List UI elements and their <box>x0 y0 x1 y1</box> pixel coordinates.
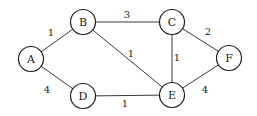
node-c: C <box>160 10 185 35</box>
edge-weight-c-e: 1 <box>174 52 180 63</box>
node-label: A <box>26 53 36 66</box>
edges <box>31 22 229 96</box>
edge-weight-b-e: 1 <box>128 48 134 59</box>
edge-weight-d-e: 1 <box>122 98 128 109</box>
node-a: A <box>19 47 44 72</box>
edge-weight-a-b: 1 <box>48 27 54 38</box>
node-e: E <box>160 83 185 108</box>
node-f: F <box>217 46 242 71</box>
edge-b-e <box>83 22 172 95</box>
node-label: C <box>168 16 176 29</box>
edge-d-e <box>83 95 172 96</box>
node-b: B <box>71 10 96 35</box>
node-label: F <box>225 52 233 65</box>
node-label: E <box>168 89 176 102</box>
node-d: D <box>71 84 96 109</box>
node-label: D <box>79 90 88 103</box>
edge-weight-c-f: 2 <box>205 26 211 37</box>
node-label: B <box>79 16 87 29</box>
edge-weight-b-c: 3 <box>124 9 130 20</box>
graph-diagram: 14311124 ABCDEF <box>0 0 257 116</box>
edge-weight-e-f: 4 <box>202 84 208 95</box>
edge-weight-a-d: 4 <box>44 84 50 95</box>
